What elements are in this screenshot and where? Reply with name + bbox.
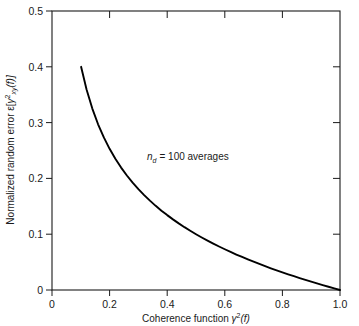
x-axis-ticks-top	[110, 11, 283, 18]
annotation-rest: = 100 averages	[159, 151, 228, 162]
y-axis-ticks-left	[46, 11, 52, 290]
x-tick-label: 0.6	[217, 298, 232, 310]
error-curve	[81, 67, 340, 290]
x-axis-title-suffix: (f)	[240, 313, 249, 324]
x-tick-label: 0.2	[102, 298, 117, 310]
x-tick-label: 0	[49, 298, 55, 310]
y-tick-label: 0.5	[28, 5, 43, 17]
x-tick-label: 0.4	[160, 298, 175, 310]
x-axis-title-prefix: Coherence function	[142, 313, 232, 324]
chart-figure: 0.5 0.4 0.3 0.2 0.1 0 0 0.2 0.4 0.6 0.8 …	[0, 0, 359, 326]
y-tick-label: 0.2	[28, 172, 43, 184]
x-tick-labels: 0 0.2 0.4 0.6 0.8 1.0	[49, 298, 347, 310]
x-axis-title: Coherence function γ2(f)	[142, 312, 250, 324]
y-axis-title-prefix: Normalized random error	[5, 111, 16, 225]
y-axis-title: Normalized random error ε[γ2xy(f)]	[4, 75, 18, 225]
x-tick-label: 1.0	[333, 298, 348, 310]
y-tick-label: 0	[37, 284, 43, 296]
y-tick-label: 0.4	[28, 61, 43, 73]
y-tick-label: 0.3	[28, 117, 43, 129]
annotation-subscript: d	[153, 157, 158, 164]
y-tick-labels: 0.5 0.4 0.3 0.2 0.1 0	[28, 5, 43, 296]
y-axis-title-suffix: (f)]	[5, 75, 16, 87]
x-tick-label: 0.8	[275, 298, 290, 310]
y-tick-label: 0.1	[28, 228, 43, 240]
y-axis-ticks-right	[333, 67, 340, 234]
curve-annotation: nd= 100 averages	[147, 151, 229, 164]
x-axis-ticks-bottom	[52, 290, 340, 296]
coherence-random-error-chart: 0.5 0.4 0.3 0.2 0.1 0 0 0.2 0.4 0.6 0.8 …	[0, 0, 359, 326]
